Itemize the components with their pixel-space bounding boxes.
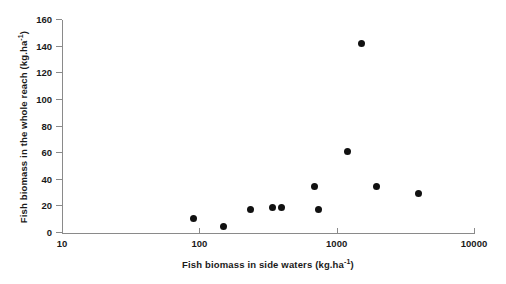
data-point (190, 215, 197, 222)
data-point (373, 183, 380, 190)
x-tick-label: 10 (32, 238, 92, 249)
scatter-plot-figure: 020406080100120140160 10100100010000 Fis… (0, 0, 506, 284)
superscript-exponent: -1 (17, 34, 24, 41)
x-tick-mark (199, 228, 200, 234)
y-axis-line (62, 20, 63, 234)
y-tick-mark (56, 99, 62, 100)
data-point (358, 40, 365, 47)
y-tick-mark (56, 179, 62, 180)
y-tick-mark (56, 72, 62, 73)
y-tick-mark (56, 46, 62, 47)
superscript-exponent: -1 (344, 258, 351, 265)
y-tick-mark (56, 205, 62, 206)
x-tick-label: 10000 (444, 238, 504, 249)
data-point (311, 183, 318, 190)
data-point (344, 148, 351, 155)
data-point (247, 206, 254, 213)
x-tick-label: 100 (169, 238, 229, 249)
x-tick-mark (62, 228, 63, 234)
y-tick-mark (56, 19, 62, 20)
y-tick-mark (56, 126, 62, 127)
data-point (415, 190, 422, 197)
y-axis-title: Fish biomass in the whole reach (kg.ha-1… (14, 11, 34, 243)
y-tick-mark (56, 152, 62, 153)
data-point (220, 223, 227, 230)
data-point (269, 204, 276, 211)
data-point (278, 204, 285, 211)
x-axis-line (62, 233, 474, 234)
x-tick-mark (337, 228, 338, 234)
x-axis-title: Fish biomass in side waters (kg.ha-1) (62, 259, 474, 270)
x-tick-label: 1000 (307, 238, 367, 249)
data-point (315, 206, 322, 213)
x-tick-mark (474, 228, 475, 234)
